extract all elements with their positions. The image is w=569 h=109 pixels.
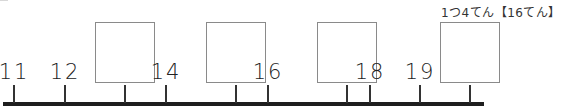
tick-label: 11 [0, 60, 29, 84]
tick-label: 19 [405, 60, 436, 84]
tick-mark [369, 85, 371, 103]
score-label: 1つ4てん【16てん】 [441, 3, 561, 20]
tick-mark [124, 85, 126, 103]
tick-mark [346, 85, 348, 103]
tick-mark [267, 85, 269, 103]
corner-mark [0, 0, 8, 1]
tick-label: 14 [151, 60, 182, 84]
answer-box[interactable] [440, 22, 500, 83]
tick-label: 16 [253, 60, 284, 84]
answer-box[interactable] [95, 22, 155, 83]
tick-mark [469, 85, 471, 103]
number-line-axis [3, 102, 484, 106]
tick-mark [165, 85, 167, 103]
tick-label: 12 [50, 60, 81, 84]
tick-label: 18 [355, 60, 386, 84]
tick-mark [64, 85, 66, 103]
tick-mark [419, 85, 421, 103]
tick-mark [235, 85, 237, 103]
tick-mark [13, 85, 15, 103]
